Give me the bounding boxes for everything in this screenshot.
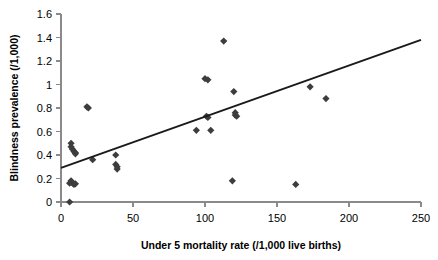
- y-tick-label: 1.4: [37, 32, 52, 44]
- data-point-marker: [292, 181, 299, 188]
- y-tick-label: 0.6: [37, 126, 52, 138]
- x-axis-title: Under 5 mortality rate (/1,000 live birt…: [141, 239, 341, 251]
- y-tick-label: 1.6: [37, 8, 52, 20]
- y-axis-title: Blindness prevalence (/1,000): [8, 34, 20, 181]
- y-tick-label: 0.2: [37, 173, 52, 185]
- y-tick-label: 0: [46, 196, 52, 208]
- data-point-marker: [220, 37, 227, 44]
- y-axis-ticks: 00.20.40.60.811.21.41.6: [37, 8, 61, 208]
- data-point-marker: [66, 198, 73, 205]
- x-tick-label: 150: [268, 212, 286, 224]
- data-point-marker: [112, 151, 119, 158]
- y-tick-label: 0.8: [37, 102, 52, 114]
- data-point-marker: [230, 88, 237, 95]
- x-axis-ticks: 050100150200250: [58, 202, 430, 224]
- chart-canvas: 00.20.40.60.811.21.41.6 050100150200250 …: [0, 0, 438, 260]
- y-tick-label: 0.4: [37, 149, 52, 161]
- y-tick-label: 1: [46, 79, 52, 91]
- y-tick-label: 1.2: [37, 55, 52, 67]
- scatter-chart-figure: 00.20.40.60.811.21.41.6 050100150200250 …: [0, 0, 438, 260]
- data-point-marker: [322, 95, 329, 102]
- x-tick-label: 250: [412, 212, 430, 224]
- x-tick-label: 100: [196, 212, 214, 224]
- data-points-group: [66, 37, 330, 205]
- data-point-marker: [307, 83, 314, 90]
- data-point-marker: [229, 177, 236, 184]
- x-tick-label: 50: [127, 212, 139, 224]
- x-tick-label: 0: [58, 212, 64, 224]
- x-tick-label: 200: [340, 212, 358, 224]
- data-point-marker: [193, 127, 200, 134]
- data-point-marker: [207, 127, 214, 134]
- trend-line: [61, 40, 421, 168]
